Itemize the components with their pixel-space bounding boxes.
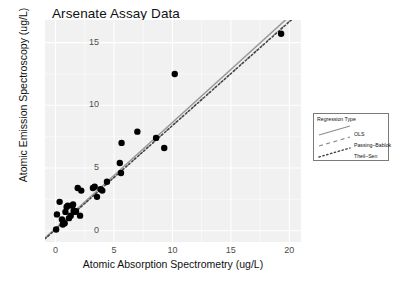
- x-tick-label: 0: [41, 245, 71, 255]
- chart-figure: Arsenate Assay Data Atomic Emission Spec…: [0, 0, 408, 286]
- legend-label-theil-sen: Theil–Sen: [354, 153, 377, 159]
- legend-box: Regression Type OLS Passing–Bablok Theil…: [313, 113, 389, 161]
- x-tick-label: 20: [274, 245, 304, 255]
- y-tick-label: 15: [69, 37, 99, 47]
- plot-svg: [45, 20, 301, 242]
- x-tick-label: 5: [99, 245, 129, 255]
- legend-label-passing-bablok: Passing–Bablok: [354, 142, 391, 148]
- legend-keys: [314, 114, 390, 162]
- x-tick-label: 15: [216, 245, 246, 255]
- y-tick-label: 5: [69, 162, 99, 172]
- y-tick-label: 10: [69, 99, 99, 109]
- y-tick-label: 0: [69, 225, 99, 235]
- plot-panel: [45, 20, 301, 242]
- y-axis-title: Atomic Emission Spectroscopy (ug/L): [17, 0, 29, 200]
- legend-label-ols: OLS: [354, 131, 364, 137]
- chart-title: Arsenate Assay Data: [52, 6, 180, 21]
- x-axis-title: Atomic Absorption Spectrometry (ug/L): [45, 258, 301, 270]
- x-tick-label: 10: [157, 245, 187, 255]
